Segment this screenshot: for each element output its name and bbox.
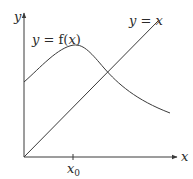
x-axis-label: x: [181, 149, 189, 164]
x0-tick-label: x0: [67, 161, 80, 178]
y-axis-label: y: [13, 9, 22, 24]
f-curve: [24, 45, 170, 113]
identity-line-label: y = x: [128, 13, 164, 28]
f-curve-label: y = f(x): [31, 32, 81, 47]
function-diagram: y x x0 y = f(x) y = x: [0, 0, 193, 179]
